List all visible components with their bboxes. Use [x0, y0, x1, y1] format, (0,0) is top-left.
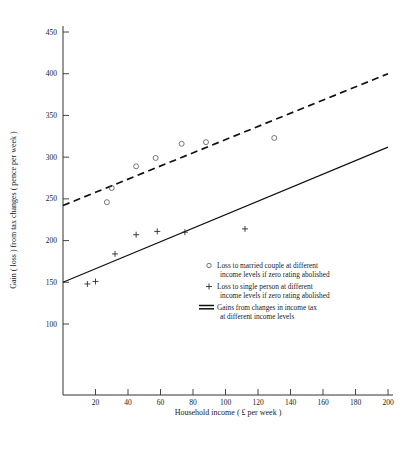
legend-circle-icon [207, 263, 211, 267]
x-tick-label: 20 [92, 398, 100, 407]
legend-entry-line2: at different income levels [220, 312, 294, 321]
data-point-plus [242, 226, 248, 232]
x-axis-ticks: 20406080100120140160180200 [92, 389, 394, 407]
y-tick-label: 350 [46, 111, 58, 120]
y-axis-ticks: 100150200250300350400450 [46, 28, 69, 329]
data-point-circle [104, 200, 109, 205]
y-tick-label: 100 [46, 320, 58, 329]
data-point-plus [154, 228, 160, 234]
x-tick-label: 140 [285, 398, 297, 407]
y-tick-label: 250 [46, 194, 58, 203]
y-tick-label: 200 [46, 236, 58, 245]
y-tick-label: 450 [46, 28, 58, 37]
legend-entry-line2: income levels if zero rating abolished [220, 270, 330, 279]
y-tick-label: 300 [46, 153, 58, 162]
chart-axes [63, 26, 393, 395]
chart-legend: Loss to married couple at differentincom… [199, 261, 330, 321]
data-point-plus [84, 281, 90, 287]
x-tick-label: 120 [252, 398, 264, 407]
x-tick-label: 180 [350, 398, 362, 407]
legend-entry-line2: income levels if zero rating abolished [220, 291, 330, 300]
x-tick-label: 40 [124, 398, 132, 407]
data-point-plus [93, 278, 99, 284]
x-tick-label: 60 [157, 398, 165, 407]
data-point-plus [133, 232, 139, 238]
data-point-circle [204, 140, 209, 145]
data-point-circle [272, 135, 277, 140]
chart-svg: 100150200250300350400450 204060801001201… [0, 0, 406, 453]
chart-figure: 100150200250300350400450 204060801001201… [0, 0, 406, 453]
y-axis-title: Gain ( loss ) from tax changes ( pence p… [9, 131, 18, 289]
trend-lines-group [63, 74, 388, 283]
data-point-plus [112, 251, 118, 257]
y-tick-label: 400 [46, 69, 58, 78]
x-tick-label: 200 [382, 398, 394, 407]
data-point-circle [153, 155, 158, 160]
x-tick-label: 160 [317, 398, 329, 407]
y-tick-label: 150 [46, 278, 58, 287]
x-axis-title: Household income ( £ per week ) [175, 408, 282, 417]
x-tick-label: 100 [220, 398, 232, 407]
data-point-circle [134, 164, 139, 169]
x-tick-label: 80 [189, 398, 197, 407]
data-point-circle [179, 141, 184, 146]
